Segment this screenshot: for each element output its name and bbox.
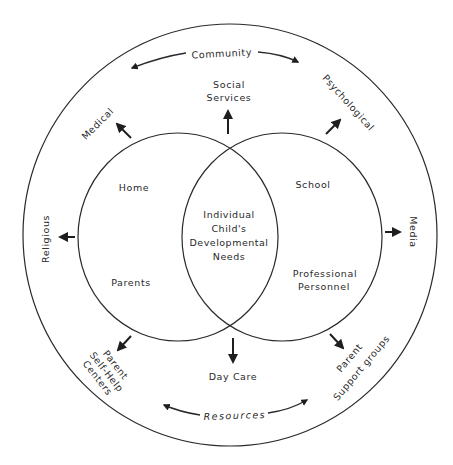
religious-label: Religious: [40, 215, 51, 263]
center-label-line2: Child's: [211, 223, 246, 234]
psychological-arrow-icon: [326, 120, 340, 134]
school-label: School: [295, 179, 330, 190]
resources-label: Resources: [203, 409, 266, 422]
community-arrow-left-icon: [132, 53, 186, 68]
professional-label: Professional: [293, 268, 357, 279]
day-care-label: Day Care: [209, 371, 258, 382]
personnel-label: Personnel: [298, 281, 350, 292]
medical-arrow-icon: [117, 124, 131, 138]
community-arrow-right-icon: [258, 52, 298, 62]
medical-label: Medical: [79, 105, 115, 141]
media-label: Media: [408, 216, 419, 248]
parent-support-arrow-icon: [330, 334, 343, 348]
resources-arrow-left-icon: [164, 405, 200, 415]
psychological-label: Psychological: [320, 72, 376, 133]
social-services-label-line2: Services: [207, 92, 252, 103]
home-label: Home: [119, 182, 149, 193]
community-label: Community: [191, 46, 252, 60]
social-services-label-line1: Social: [213, 79, 245, 90]
parents-label: Parents: [111, 277, 151, 288]
resources-arrow-right-icon: [268, 400, 307, 413]
child-needs-diagram: Community Resources Social Services Medi…: [0, 0, 453, 465]
center-label-line4: Needs: [213, 251, 245, 262]
parent-self-help-arrow-icon: [118, 336, 131, 350]
center-label-line3: Developmental: [190, 237, 269, 248]
center-label-line1: Individual: [203, 209, 254, 220]
